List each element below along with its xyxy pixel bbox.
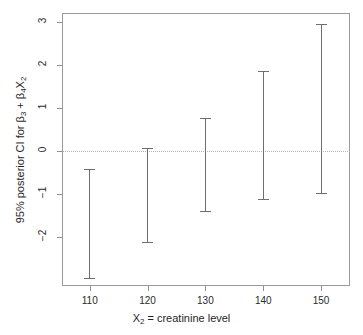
error-bar-stem <box>147 148 148 242</box>
x-tick-130 <box>205 286 206 291</box>
error-bar-x-140 <box>258 71 269 200</box>
y-axis-label: 95% posterior CI for β3 + β4X2 <box>14 77 26 224</box>
error-bar-lower-cap <box>200 211 211 212</box>
x-tick-120 <box>148 286 149 291</box>
x-tick-110 <box>90 286 91 291</box>
y-tick-label--2: −2 <box>37 223 48 247</box>
x-tick-label-130: 130 <box>185 295 225 306</box>
error-bar-stem <box>321 24 322 194</box>
y-tick-label--1: −1 <box>37 180 48 204</box>
error-bar-upper-cap <box>258 71 269 72</box>
error-bar-stem <box>205 118 206 212</box>
error-bar-stem <box>263 71 264 200</box>
error-bar-lower-cap <box>316 193 327 194</box>
y-tick-0 <box>57 151 62 152</box>
x-tick-label-140: 140 <box>243 295 283 306</box>
y-axis-label-text: 95% posterior CI for β3 + β4X2 <box>14 77 26 224</box>
y-tick-2 <box>57 65 62 66</box>
error-bar-x-130 <box>200 118 211 212</box>
error-bar-lower-cap <box>84 278 95 279</box>
error-bar-lower-cap <box>142 242 153 243</box>
error-bar-upper-cap <box>142 148 153 149</box>
y-tick-3 <box>57 22 62 23</box>
x-tick-label-110: 110 <box>70 295 110 306</box>
error-bar-upper-cap <box>316 24 327 25</box>
error-bar-stem <box>89 169 90 279</box>
y-tick-label-2: 2 <box>37 51 48 75</box>
y-tick-label-1: 1 <box>37 94 48 118</box>
error-bar-upper-cap <box>200 118 211 119</box>
x-tick-150 <box>321 286 322 291</box>
x-tick-label-150: 150 <box>301 295 341 306</box>
y-tick--1 <box>57 194 62 195</box>
y-tick-label-0: 0 <box>37 137 48 161</box>
y-tick-label-3: 3 <box>37 8 48 32</box>
x-axis-label: X2 = creatinine level <box>0 312 363 324</box>
error-bar-x-120 <box>142 148 153 242</box>
error-bar-lower-cap <box>258 199 269 200</box>
x-tick-label-120: 120 <box>128 295 168 306</box>
x-tick-140 <box>263 286 264 291</box>
y-tick-1 <box>57 108 62 109</box>
x-axis-label-text: X2 = creatinine level <box>133 312 231 324</box>
error-bar-x-110 <box>84 169 95 279</box>
y-tick--2 <box>57 237 62 238</box>
error-bar-x-150 <box>316 24 327 194</box>
error-bar-upper-cap <box>84 169 95 170</box>
figure-root: 110120130140150 −2−10123 X2 = creatinine… <box>0 0 363 335</box>
